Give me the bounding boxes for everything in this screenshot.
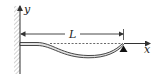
x-axis-label: x bbox=[144, 43, 151, 56]
length-label: L bbox=[68, 28, 76, 41]
beam-diagram: y L x bbox=[0, 0, 157, 77]
deflected-beam bbox=[20, 43, 124, 58]
y-axis-label: y bbox=[23, 3, 31, 16]
fixed-wall bbox=[14, 6, 20, 74]
